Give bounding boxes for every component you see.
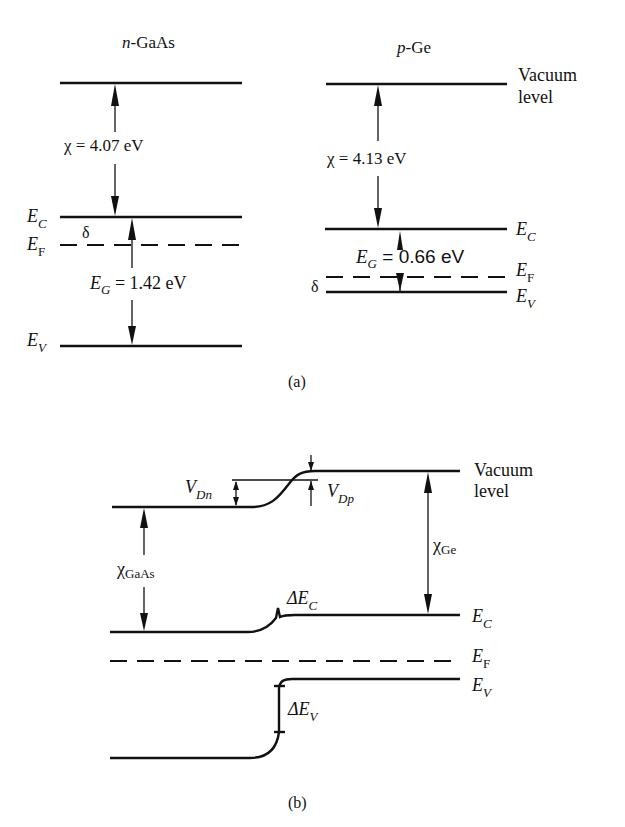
arrow-head-icon xyxy=(140,613,148,631)
vdp-label: VDp xyxy=(327,481,354,506)
arrow-head-icon xyxy=(128,218,136,240)
arrow-head-icon xyxy=(233,497,239,506)
gaas-ef-label: EF xyxy=(26,234,45,259)
arrow-head-icon xyxy=(374,85,382,106)
gaas-delta-label: δ xyxy=(82,224,90,241)
arrow-head-icon xyxy=(140,508,148,528)
junction-vacuum-level-label-line1: Vacuum xyxy=(474,460,533,480)
ge-delta-label: δ xyxy=(311,278,319,295)
arrow-head-icon xyxy=(128,326,136,345)
arrow-head-icon xyxy=(308,481,314,490)
junction-conduction-band-line xyxy=(110,608,460,632)
gaas-electron-affinity-label: χ = 4.07 eV xyxy=(63,136,144,155)
ge-ev-label: EV xyxy=(515,286,537,311)
arrow-head-icon xyxy=(374,208,382,228)
vdn-label: VDn xyxy=(185,477,212,502)
ge-vacuum-level-label-line1: Vacuum xyxy=(518,65,577,85)
chi-ge-label: χGe xyxy=(432,535,456,557)
heterojunction-band-diagram: VDn VDp χGaAs χGe ΔEC ΔEV Vacuum level E… xyxy=(110,455,533,758)
junction-ec-label: EC xyxy=(471,606,492,631)
gaas-title: n-GaAs xyxy=(122,33,175,52)
arrow-head-icon xyxy=(308,462,314,471)
junction-valence-band-line xyxy=(110,679,460,758)
panel-b-caption: (b) xyxy=(288,794,307,812)
arrow-head-icon xyxy=(233,481,239,490)
ge-electron-affinity-label: χ = 4.13 eV xyxy=(326,149,407,168)
ge-vacuum-level-label-line2: level xyxy=(518,87,553,107)
junction-vacuum-level-line xyxy=(112,471,460,507)
chi-gaas-label: χGaAs xyxy=(116,559,155,581)
ge-bandgap-label: EG = 0.66 eV xyxy=(355,246,464,271)
arrow-head-icon xyxy=(424,472,432,493)
gaas-bandgap-label: EG = 1.42 eV xyxy=(89,273,187,297)
ge-ef-label: EF xyxy=(515,260,534,285)
junction-vacuum-level-label-line2: level xyxy=(474,481,509,501)
gaas-ec-label: EC xyxy=(26,206,47,231)
gaas-band-diagram: n-GaAs χ = 4.07 eV EG = 1.42 eV δ EC EF … xyxy=(26,33,242,355)
junction-ef-label: EF xyxy=(471,646,490,671)
ge-band-diagram: p-Ge χ = 4.13 eV EG = 0.66 eV δ Vacuum l… xyxy=(311,38,577,311)
junction-ev-label: EV xyxy=(471,675,493,700)
ge-title: p-Ge xyxy=(396,38,431,57)
panel-a-caption: (a) xyxy=(288,373,306,391)
arrow-head-icon xyxy=(111,196,119,216)
delta-ev-label: ΔEV xyxy=(287,699,320,724)
arrow-head-icon xyxy=(424,594,432,614)
delta-ec-label: ΔEC xyxy=(286,588,318,613)
band-diagram: n-GaAs χ = 4.07 eV EG = 1.42 eV δ EC EF … xyxy=(0,0,625,827)
gaas-ev-label: EV xyxy=(26,330,48,355)
arrow-head-icon xyxy=(111,84,119,106)
ge-ec-label: EC xyxy=(515,219,536,244)
